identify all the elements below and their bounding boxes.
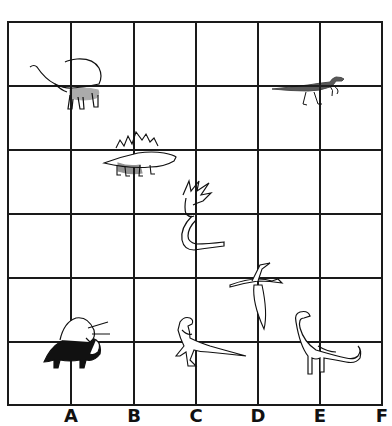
column-label-a: A xyxy=(61,407,81,425)
column-label-b: B xyxy=(124,407,144,425)
column-label-f: F xyxy=(372,407,392,425)
pterodactyl-icon xyxy=(230,263,282,329)
sauropod-icon xyxy=(30,59,101,109)
plesiosaur-icon xyxy=(182,181,224,250)
column-label-d: D xyxy=(248,407,268,425)
column-label-c: C xyxy=(186,407,206,425)
raptor-icon xyxy=(272,77,344,105)
stegosaurus-icon xyxy=(104,132,176,176)
column-label-e: E xyxy=(310,407,330,425)
